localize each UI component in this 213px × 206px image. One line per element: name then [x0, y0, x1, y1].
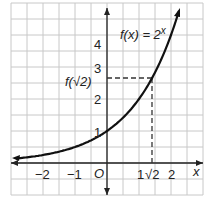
y-tick-1: 1	[94, 126, 101, 139]
y-axis-arrow-icon	[104, 8, 110, 15]
x-tick-neg1: −1	[67, 168, 82, 181]
y-tick-4: 4	[94, 38, 101, 51]
y-tick-3: 3	[94, 62, 101, 75]
y-tick-2: 2	[94, 93, 101, 106]
x-tick-neg2: −2	[35, 168, 50, 181]
curve-left-arrow-icon	[12, 155, 20, 161]
graph-canvas	[0, 0, 213, 206]
function-label: f(x) = 2x	[120, 26, 166, 41]
annotation-y-label: f(√2)	[65, 75, 92, 88]
x-tick-2: 2	[168, 168, 175, 181]
origin-label: O	[94, 167, 104, 180]
annotation-x-label: √2	[145, 168, 159, 181]
x-tick-1: 1	[137, 168, 144, 181]
x-axis-left-arrow-icon	[11, 160, 18, 166]
y-axis-down-arrow-icon	[104, 188, 110, 195]
curve-top-arrow-icon	[174, 8, 180, 17]
x-axis-label: x	[193, 165, 200, 178]
